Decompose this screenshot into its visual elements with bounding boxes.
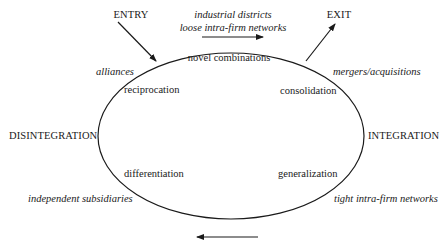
entry-label: ENTRY: [114, 9, 149, 21]
exit-label: EXIT: [327, 9, 351, 21]
form-tight-networks: tight intra-firm networks: [334, 193, 438, 205]
phase-novel-combinations: novel combinations: [188, 52, 271, 64]
disintegration-label: DISINTEGRATION: [9, 130, 97, 142]
integration-label: INTEGRATION: [368, 130, 439, 142]
phase-differentiation: differentiation: [124, 168, 184, 180]
entry-arrow: [118, 22, 156, 61]
form-mergers-acquisitions: mergers/acquisitions: [333, 66, 421, 78]
phase-generalization: generalization: [278, 168, 337, 180]
cycle-ellipse: [98, 53, 364, 219]
cycle-diagram: [0, 0, 446, 251]
phase-consolidation: consolidation: [280, 85, 337, 97]
phase-reciprocation: reciprocation: [124, 84, 179, 96]
form-alliances: alliances: [96, 66, 134, 78]
exit-arrow: [306, 24, 335, 61]
form-industrial-districts: industrial districts: [194, 9, 271, 21]
form-loose-networks: loose intra-firm networks: [180, 22, 287, 34]
form-independent-subsidiaries: independent subsidiaries: [28, 193, 133, 205]
